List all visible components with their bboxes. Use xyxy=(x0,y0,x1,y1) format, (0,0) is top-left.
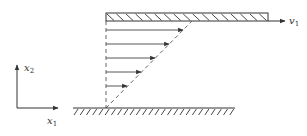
hatch-mark xyxy=(136,109,140,115)
hatch-mark xyxy=(231,14,238,21)
hatch-mark xyxy=(193,14,200,21)
hatch-mark xyxy=(155,14,162,21)
hatch-mark xyxy=(224,109,228,115)
stationary-wall xyxy=(73,108,235,115)
hatch-mark xyxy=(192,109,196,115)
x1-axis-label: x1 xyxy=(47,115,57,128)
plate-velocity-label: v1 xyxy=(289,15,299,28)
hatch-mark xyxy=(143,109,147,115)
hatch-mark xyxy=(202,14,209,21)
hatch-mark xyxy=(167,109,171,115)
hatch-mark xyxy=(155,109,159,115)
hatch-mark xyxy=(99,109,103,115)
hatch-mark xyxy=(183,14,190,21)
hatch-mark xyxy=(74,109,78,115)
hatch-mark xyxy=(205,109,209,115)
coordinate-axes: x2 x1 xyxy=(17,62,58,128)
hatch-mark xyxy=(161,109,165,115)
hatch-mark xyxy=(164,14,171,21)
velocity-profile-line xyxy=(106,21,192,108)
hatch-mark xyxy=(124,109,128,115)
velocity-arrows xyxy=(106,30,183,86)
hatch-mark xyxy=(80,109,84,115)
hatch-mark xyxy=(145,14,152,21)
hatch-mark xyxy=(259,14,266,21)
hatch-mark xyxy=(136,14,143,21)
hatch-mark xyxy=(221,14,228,21)
hatch-mark xyxy=(186,109,190,115)
x2-axis-label: x2 xyxy=(24,62,34,75)
hatch-mark xyxy=(126,14,133,21)
hatch-mark xyxy=(149,109,153,115)
hatch-mark xyxy=(199,109,203,115)
hatch-mark xyxy=(117,14,124,21)
hatch-mark xyxy=(217,109,221,115)
hatch-mark xyxy=(105,109,109,115)
hatch-mark xyxy=(250,14,257,21)
hatch-mark xyxy=(107,14,114,21)
top-plate xyxy=(106,13,268,21)
hatch-mark xyxy=(93,109,97,115)
hatch-mark xyxy=(212,14,219,21)
hatch-mark xyxy=(111,109,115,115)
hatch-mark xyxy=(230,109,234,115)
couette-flow-diagram: v1 x2 x1 xyxy=(0,0,307,136)
hatch-mark xyxy=(86,109,90,115)
hatch-mark xyxy=(174,14,181,21)
hatch-mark xyxy=(174,109,178,115)
hatch-mark xyxy=(180,109,184,115)
hatch-mark xyxy=(118,109,122,115)
hatch-mark xyxy=(130,109,134,115)
hatch-mark xyxy=(240,14,247,21)
hatch-mark xyxy=(211,109,215,115)
